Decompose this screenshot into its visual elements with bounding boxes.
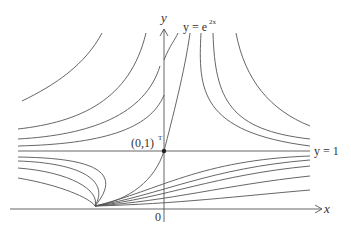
trajectory <box>200 33 310 146</box>
trajectory <box>18 157 106 206</box>
equilibrium-point <box>162 149 166 153</box>
trajectory <box>164 33 178 60</box>
trajectory <box>95 160 310 206</box>
exp-curve-label-exponent: 2x <box>209 18 217 26</box>
equilibrium-label: (0,1) <box>131 136 154 150</box>
trajectory <box>18 33 146 129</box>
x-axis-label: x <box>323 201 330 216</box>
trajectory <box>22 33 102 101</box>
trajectory <box>18 178 95 206</box>
y-axis-label: y <box>159 10 167 25</box>
origin-label: 0 <box>155 210 161 224</box>
trajectory <box>18 66 160 139</box>
trajectory <box>236 33 310 126</box>
trajectory <box>95 190 310 206</box>
equilibrium-label-superscript: T <box>158 134 163 142</box>
exp-curve-label: y = e <box>183 20 207 34</box>
phase-portrait-diagram: y x 0 (0,1) T y = e 2x y = 1 <box>0 0 351 237</box>
horizontal-line-label: y = 1 <box>314 144 339 158</box>
trajectory <box>95 176 310 206</box>
trajectory <box>213 33 310 139</box>
